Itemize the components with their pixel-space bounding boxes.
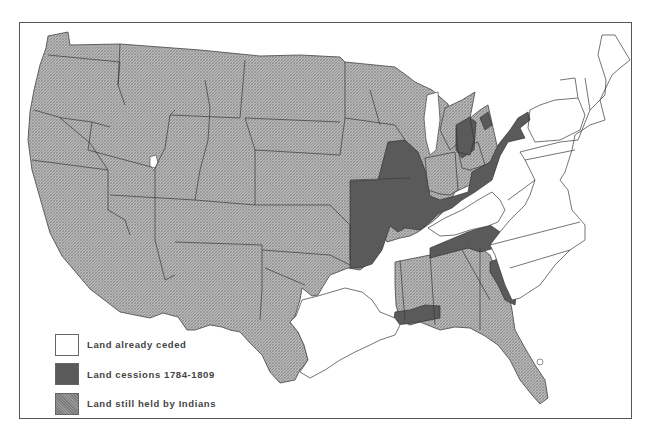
- legend-label-held: Land still held by Indians: [87, 398, 216, 409]
- legend-swatch-held: [55, 393, 79, 415]
- legend-item-cessions: Land cessions 1784-1809: [55, 360, 216, 390]
- legend-item-held: Land still held by Indians: [55, 389, 216, 419]
- legend-label-ceded: Land already ceded: [87, 339, 187, 350]
- legend-swatch-ceded: [55, 334, 79, 356]
- legend-item-ceded: Land already ceded: [55, 330, 216, 360]
- lake-okeechobee: [537, 359, 543, 365]
- gulf-ceded: [290, 288, 400, 378]
- eastern-states-outline: [490, 35, 630, 300]
- legend-swatch-cessions: [55, 363, 79, 385]
- legend: Land already ceded Land cessions 1784-18…: [55, 330, 216, 419]
- legend-label-cessions: Land cessions 1784-1809: [87, 369, 215, 380]
